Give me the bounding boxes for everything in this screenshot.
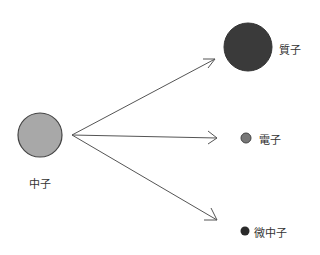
proton-label: 質子 (279, 41, 301, 57)
decay-diagram (0, 0, 320, 255)
electron-label: 電子 (259, 131, 281, 147)
electron-circle (241, 133, 251, 143)
neutrino-circle (241, 227, 250, 236)
neutron-circle (18, 113, 62, 157)
neutrino-label: 微中子 (254, 224, 287, 240)
arrow-to-electron (72, 131, 217, 144)
neutron-label: 中子 (29, 175, 51, 191)
arrow-to-proton (72, 59, 215, 135)
proton-circle (224, 23, 272, 71)
arrows (72, 59, 217, 220)
arrow-to-neutrino (72, 135, 217, 220)
